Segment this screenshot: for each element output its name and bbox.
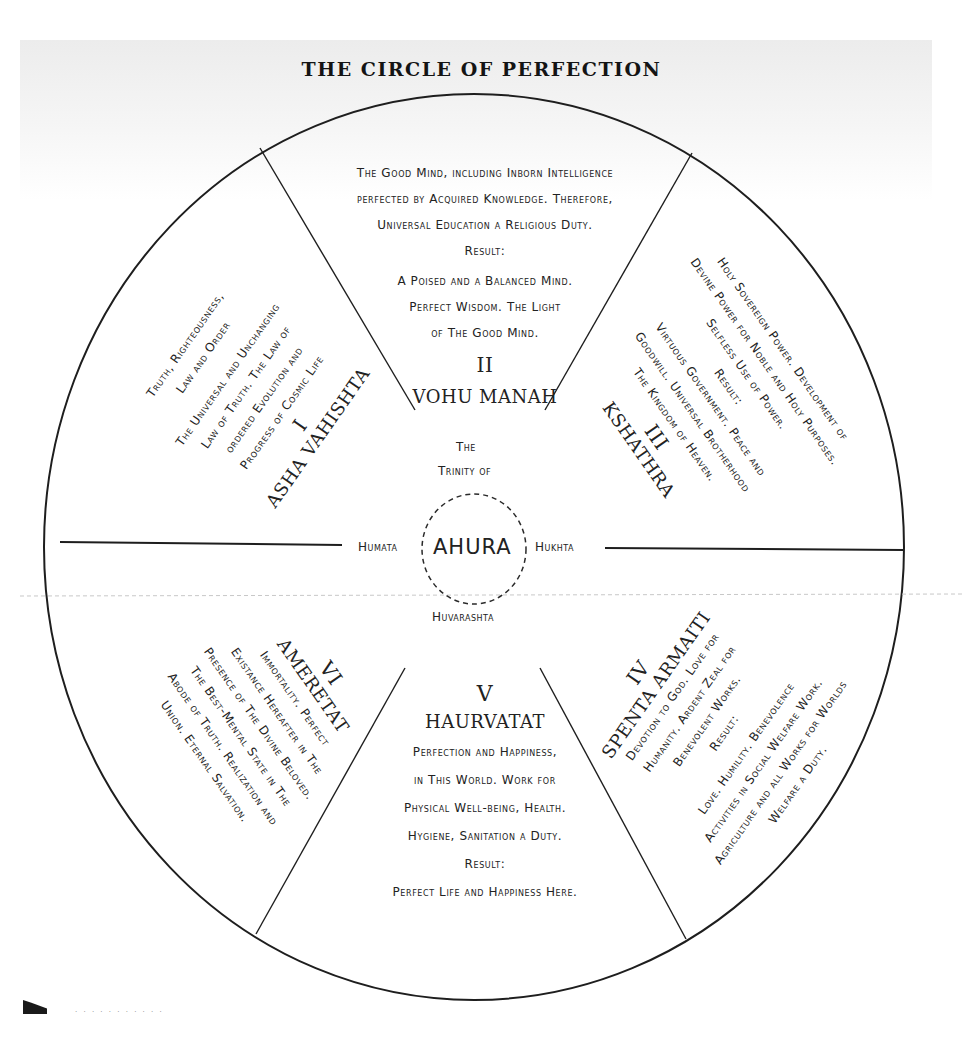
- center-header-the: The: [456, 440, 476, 454]
- center-bottom-huvarashta: Huvarashta: [432, 610, 494, 624]
- faded-credit-text: · · · · · · · · · · ·: [75, 1008, 164, 1016]
- segment-2-line: The Good Mind, including Inborn Intellig…: [290, 160, 680, 186]
- segment-2-line: perfected by Acquired Knowledge. Therefo…: [290, 186, 680, 212]
- center-left-humata: Humata: [358, 540, 397, 554]
- center-right-hukhta: Hukhta: [535, 540, 574, 554]
- center-ahura: AHURA: [433, 535, 512, 559]
- center-header-trinity: Trinity of: [438, 464, 491, 478]
